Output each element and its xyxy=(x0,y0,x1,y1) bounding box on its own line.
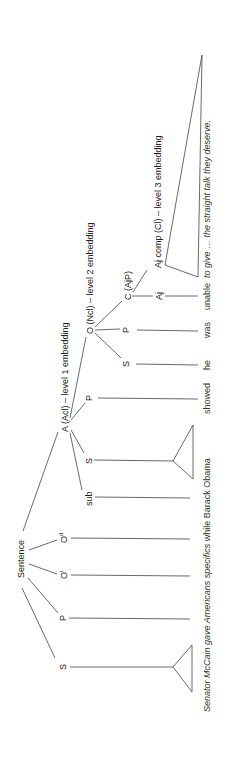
node-aj-comp: Aj comp (Cl) – level 3 embedding xyxy=(153,135,163,268)
node-adverbial-clause: A (Acl) – level 1 embedding xyxy=(60,322,70,432)
node-acl-sub: sub xyxy=(84,491,94,506)
node-acl-s: S xyxy=(84,458,94,464)
word-unable: unable xyxy=(202,283,212,310)
node-main-s: S xyxy=(58,664,68,670)
word-was: was xyxy=(202,321,212,339)
node-ncl-p: P xyxy=(121,327,131,333)
node-main-od: Od xyxy=(58,533,69,543)
word-showed: showed xyxy=(202,383,212,414)
node-aj: Aj xyxy=(154,292,164,300)
word-he: he xyxy=(202,360,212,370)
node-complement: C (AjP) xyxy=(123,271,133,300)
syntax-tree-diagram: Sentence S P Oi Od A (Acl) – level 1 emb… xyxy=(0,0,227,765)
tree-edges xyxy=(22,55,202,692)
node-ncl-s: S xyxy=(121,361,131,367)
node-sentence: Sentence xyxy=(16,540,26,578)
sentence-main-text: Senator McCain gave Americans specifics … xyxy=(202,458,212,712)
node-main-p: P xyxy=(58,615,68,621)
node-object-clause: O (Ncl) – level 2 embedding xyxy=(85,222,95,334)
node-main-oi: Oi xyxy=(58,571,69,579)
node-acl-p: P xyxy=(84,395,94,401)
sentence-tail-text: to give … the straight talk they deserve… xyxy=(202,120,212,278)
sentence-words: Senator McCain gave Americans specifics … xyxy=(202,120,212,712)
